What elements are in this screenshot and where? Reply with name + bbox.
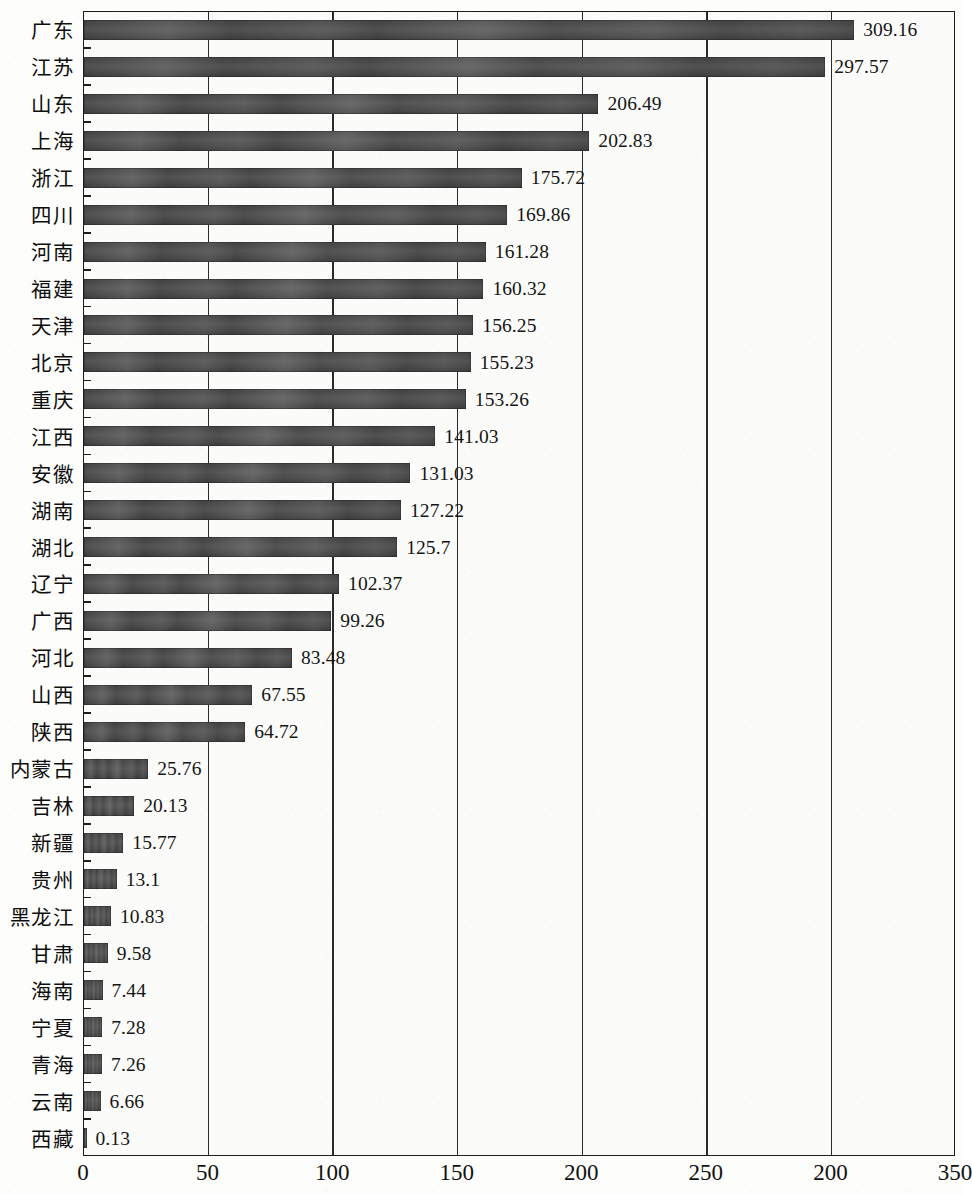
category-label-text: 北京 — [31, 347, 74, 377]
bar[interactable] — [84, 426, 435, 446]
category-label-贵州: 贵州 — [0, 861, 78, 898]
bar-row: 25.76 — [84, 751, 954, 788]
bar[interactable] — [84, 906, 111, 926]
bar-value-label: 10.83 — [120, 906, 164, 928]
bar-row: 169.86 — [84, 197, 954, 234]
category-label-重庆: 重庆 — [0, 380, 78, 417]
category-label-天津: 天津 — [0, 306, 78, 343]
bar[interactable] — [84, 463, 410, 483]
bar[interactable] — [84, 131, 589, 151]
bar-value-label: 7.26 — [111, 1054, 146, 1076]
category-label-text: 云南 — [31, 1086, 74, 1116]
category-label-text: 广东 — [31, 14, 74, 44]
category-label-上海: 上海 — [0, 122, 78, 159]
category-label-text: 陕西 — [31, 716, 74, 746]
category-label-福建: 福建 — [0, 270, 78, 307]
bar[interactable] — [84, 315, 473, 335]
bar-row: 141.03 — [84, 418, 954, 455]
category-label-甘肃: 甘肃 — [0, 934, 78, 971]
bar[interactable] — [84, 537, 397, 557]
category-label-湖南: 湖南 — [0, 491, 78, 528]
bar[interactable] — [84, 759, 148, 779]
bar[interactable] — [84, 168, 522, 188]
category-label-text: 福建 — [31, 273, 74, 303]
bar-value-label: 131.03 — [419, 463, 473, 485]
category-label-江西: 江西 — [0, 417, 78, 454]
category-label-text: 黑龙江 — [10, 901, 75, 931]
category-label-浙江: 浙江 — [0, 159, 78, 196]
bar-row: 99.26 — [84, 603, 954, 640]
bar[interactable] — [84, 722, 245, 742]
bar[interactable] — [84, 242, 486, 262]
bar[interactable] — [84, 57, 825, 77]
bar-value-label: 156.25 — [482, 315, 536, 337]
category-label-text: 江西 — [31, 421, 74, 451]
bar-value-label: 64.72 — [254, 721, 298, 743]
category-label-青海: 青海 — [0, 1045, 78, 1082]
bar-value-label: 67.55 — [261, 684, 305, 706]
bar[interactable] — [84, 205, 507, 225]
bar-value-label: 9.58 — [117, 943, 152, 965]
bar-value-label: 309.16 — [863, 19, 917, 41]
bar[interactable] — [84, 500, 401, 520]
category-label-text: 青海 — [31, 1049, 74, 1079]
category-label-text: 河北 — [31, 642, 74, 672]
bar-row: 83.48 — [84, 640, 954, 677]
bar-row: 102.37 — [84, 566, 954, 603]
bar[interactable] — [84, 279, 483, 299]
bar-value-label: 155.23 — [480, 352, 534, 374]
bar-row: 20.13 — [84, 788, 954, 825]
bar[interactable] — [84, 20, 854, 40]
bar[interactable] — [84, 352, 471, 372]
bar-row: 127.22 — [84, 492, 954, 529]
bar-row: 10.83 — [84, 898, 954, 935]
category-label-text: 河南 — [31, 236, 74, 266]
bar[interactable] — [84, 574, 339, 594]
x-tick-label-4: 200 — [564, 1160, 599, 1186]
category-label-吉林: 吉林 — [0, 787, 78, 824]
category-label-云南: 云南 — [0, 1082, 78, 1119]
category-label-text: 海南 — [31, 975, 74, 1005]
bar-value-label: 13.1 — [126, 869, 161, 891]
bar[interactable] — [84, 943, 108, 963]
category-label-内蒙古: 内蒙古 — [0, 750, 78, 787]
bar[interactable] — [84, 1017, 102, 1037]
category-label-text: 西藏 — [31, 1123, 74, 1153]
bar[interactable] — [84, 611, 331, 631]
bar-value-label: 7.28 — [111, 1017, 146, 1039]
axis-tick — [84, 1155, 91, 1156]
category-label-text: 宁夏 — [31, 1012, 74, 1042]
bar[interactable] — [84, 796, 134, 816]
bar-row: 175.72 — [84, 160, 954, 197]
bar[interactable] — [84, 648, 292, 668]
bar[interactable] — [84, 94, 598, 114]
bar-row: 125.7 — [84, 529, 954, 566]
bar[interactable] — [84, 389, 466, 409]
category-label-text: 山东 — [31, 88, 74, 118]
bar-row: 7.26 — [84, 1046, 954, 1083]
category-label-海南: 海南 — [0, 971, 78, 1008]
bar-value-label: 15.77 — [132, 832, 176, 854]
category-label-text: 湖南 — [31, 495, 74, 525]
bar[interactable] — [84, 980, 103, 1000]
bar-row: 7.44 — [84, 972, 954, 1009]
bar-row: 131.03 — [84, 455, 954, 492]
bar-row: 67.55 — [84, 677, 954, 714]
category-label-text: 山西 — [31, 679, 74, 709]
bar[interactable] — [84, 1091, 101, 1111]
bar[interactable] — [84, 833, 123, 853]
category-label-广东: 广东 — [0, 11, 78, 48]
bar-value-label: 25.76 — [157, 758, 201, 780]
bar-row: 0.13 — [84, 1120, 954, 1156]
bar-row: 13.1 — [84, 862, 954, 899]
bar-row: 156.25 — [84, 307, 954, 344]
category-label-text: 湖北 — [31, 532, 74, 562]
bar-row: 7.28 — [84, 1009, 954, 1046]
bar[interactable] — [84, 685, 252, 705]
bar[interactable] — [84, 1128, 87, 1148]
bar[interactable] — [84, 1054, 102, 1074]
category-label-text: 甘肃 — [31, 938, 74, 968]
bar[interactable] — [84, 869, 117, 889]
category-label-西藏: 西藏 — [0, 1119, 78, 1156]
category-label-text: 吉林 — [31, 790, 74, 820]
